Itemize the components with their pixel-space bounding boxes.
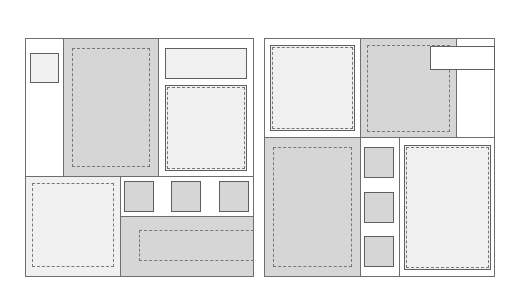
thumbnail-col-3 xyxy=(364,236,394,267)
bottom-left-dashed-area xyxy=(32,183,114,267)
thumbnail-col-1 xyxy=(364,147,394,178)
bottom-left-dashed-box xyxy=(273,147,352,267)
right-top-bar xyxy=(165,48,247,79)
left-small-box xyxy=(30,53,59,83)
thumbnail-2 xyxy=(171,181,201,212)
bottom-right-dashed-bar xyxy=(139,230,254,261)
right-dashed-box-frame xyxy=(165,85,247,171)
right-dashed-box xyxy=(167,87,245,169)
top-right-white-box xyxy=(430,46,495,70)
bottom-right-dashed-box xyxy=(406,147,489,268)
thumbnail-1 xyxy=(124,181,154,212)
thumbnail-3 xyxy=(219,181,249,212)
top-left-dashed-box xyxy=(272,47,353,129)
top-left-dashed-box-frame xyxy=(270,45,355,131)
center-dashed-box xyxy=(72,48,150,167)
thumbnail-col-2 xyxy=(364,192,394,223)
bottom-right-dashed-box-frame xyxy=(404,145,491,270)
